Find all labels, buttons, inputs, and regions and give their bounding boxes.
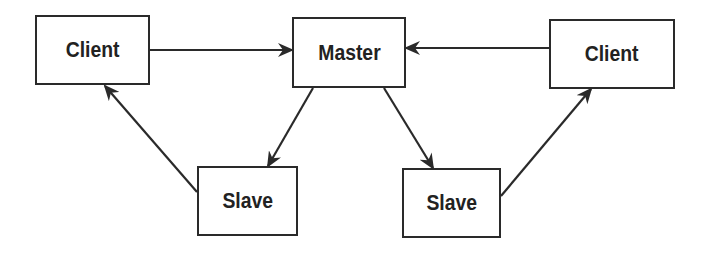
node-label: Master — [318, 40, 380, 66]
node-label: Slave — [426, 190, 477, 216]
diagram-canvas: Client Master Client Slave Slave — [0, 0, 704, 255]
node-client-right: Client — [549, 19, 675, 89]
edge-master-to-slave-right — [384, 88, 433, 168]
node-label: Slave — [222, 188, 273, 214]
edge-slave-left-to-client-left — [105, 86, 197, 192]
node-slave-right: Slave — [402, 168, 501, 238]
node-master: Master — [292, 17, 406, 88]
node-label: Client — [585, 41, 639, 67]
edge-slave-right-to-client-right — [501, 89, 591, 196]
node-label: Client — [66, 37, 120, 63]
node-client-left: Client — [35, 15, 150, 85]
edge-master-to-slave-left — [268, 88, 313, 166]
node-slave-left: Slave — [197, 166, 298, 236]
